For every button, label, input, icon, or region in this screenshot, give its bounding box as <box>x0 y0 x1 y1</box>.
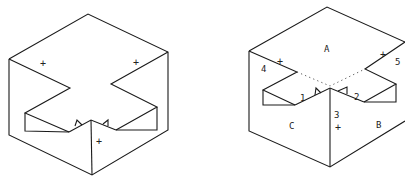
right-hidden-edge-dotted <box>297 69 365 86</box>
left-notch-right-arm <box>111 52 168 130</box>
face-label-a: A <box>324 44 330 54</box>
left-marker-plus-1: + <box>40 58 46 69</box>
edge-label-1: 1 <box>300 93 305 103</box>
right-marker-plus-1: + <box>277 56 283 67</box>
left-cube-figure: + + + <box>9 14 168 175</box>
right-cube-figure: A B C 1 2 3 4 5 + + + <box>249 7 405 167</box>
right-cube-bottom-outline <box>249 51 405 167</box>
edge-label-5: 5 <box>395 57 400 67</box>
left-marker-plus-3: + <box>96 136 102 147</box>
left-notch-left-arm <box>9 59 70 132</box>
edge-label-2: 2 <box>354 92 359 102</box>
face-label-c: C <box>289 121 294 131</box>
right-notch-left-arm <box>249 51 297 105</box>
right-marker-plus-3: + <box>335 122 341 133</box>
edge-label-3: 3 <box>334 110 339 120</box>
edge-label-4: 4 <box>261 64 266 74</box>
left-front-vertical-edge <box>91 120 92 175</box>
left-marker-plus-2: + <box>133 57 139 68</box>
face-label-b: B <box>376 120 381 130</box>
right-marker-plus-2: + <box>380 49 386 60</box>
notched-cube-diagrams: + + + A B C 1 2 3 4 5 + + + <box>0 0 405 187</box>
left-cube-outline <box>9 14 168 175</box>
